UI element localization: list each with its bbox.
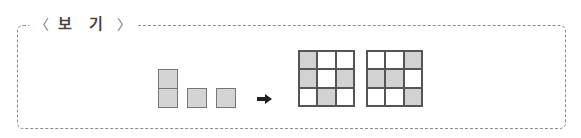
empty-cell — [385, 51, 403, 69]
piece-cell — [158, 88, 178, 108]
empty-cell — [367, 51, 385, 69]
empty-cell — [404, 69, 422, 87]
shaded-cell — [299, 69, 317, 87]
shaded-cell — [385, 69, 403, 87]
right-angle-bracket: 〉 — [117, 16, 132, 32]
shaded-cell — [299, 51, 317, 69]
empty-cell — [336, 88, 354, 106]
shaded-cell — [404, 51, 422, 69]
shaded-cell — [367, 69, 385, 87]
empty-cell — [317, 51, 335, 69]
example-box — [17, 25, 566, 129]
result-grid-1 — [298, 50, 355, 107]
empty-cell — [299, 88, 317, 106]
piece-cell — [158, 69, 178, 89]
monomino-1 — [187, 88, 207, 108]
left-angle-bracket: 〈 — [35, 16, 50, 32]
right-arrow-icon — [257, 94, 272, 104]
result-grid-2 — [366, 50, 423, 107]
shaded-cell — [317, 88, 335, 106]
title-text: 보 기 — [58, 15, 109, 33]
monomino-2 — [216, 88, 236, 108]
empty-cell — [336, 51, 354, 69]
empty-cell — [317, 69, 335, 87]
empty-cell — [367, 88, 385, 106]
shaded-cell — [336, 69, 354, 87]
shaded-cell — [404, 88, 422, 106]
empty-cell — [385, 88, 403, 106]
example-box-title: 〈보 기〉 — [29, 12, 138, 36]
